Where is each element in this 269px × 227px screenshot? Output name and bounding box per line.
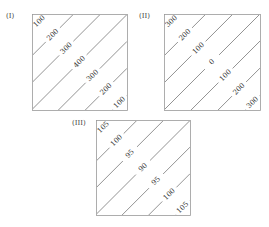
contour-line xyxy=(122,188,149,215)
contour-line xyxy=(85,96,99,110)
contour-line xyxy=(96,161,123,188)
contour-line xyxy=(137,120,164,147)
contour-line xyxy=(163,147,190,174)
contour-line xyxy=(246,68,260,82)
contour-panel-3: 105100959095100105 xyxy=(96,120,191,216)
contour-label: 300 xyxy=(85,68,100,83)
contour-label: 200 xyxy=(99,82,114,97)
contour-label: 95 xyxy=(150,175,162,187)
contour-line xyxy=(100,41,127,68)
contour-label: 100 xyxy=(109,133,124,148)
contour-label: 105 xyxy=(96,120,111,135)
contour-label: 90 xyxy=(137,162,149,174)
contour-label: 105 xyxy=(175,200,190,215)
contour-label: 100 xyxy=(112,95,127,110)
contour-line xyxy=(150,121,190,161)
contour-line xyxy=(206,14,233,41)
contour-line xyxy=(113,68,127,82)
contour-line xyxy=(60,14,74,28)
contour-label: 300 xyxy=(245,95,260,110)
contour-line xyxy=(58,83,85,110)
contour-line xyxy=(164,56,191,83)
contour-line xyxy=(96,175,136,215)
contour-line xyxy=(219,14,260,55)
contour-line xyxy=(32,55,59,82)
contour-line xyxy=(176,174,190,188)
contour-line xyxy=(164,42,178,56)
contour-line xyxy=(218,96,232,110)
contour-label: 200 xyxy=(231,81,246,96)
contour-line xyxy=(32,69,72,109)
contour-label: 300 xyxy=(59,41,74,56)
contour-line xyxy=(32,42,46,56)
contour-line xyxy=(164,69,205,110)
contour-label: 95 xyxy=(124,148,136,160)
contour-label: 200 xyxy=(177,27,192,42)
contour-label: 300 xyxy=(164,14,179,29)
contour-line xyxy=(192,14,206,28)
contour-line xyxy=(191,83,218,110)
contour-label: 100 xyxy=(218,68,233,83)
contour-line xyxy=(124,120,138,134)
contour-line xyxy=(149,201,163,215)
contour-line xyxy=(87,15,127,55)
contour-line xyxy=(96,148,110,162)
contour-label: 100 xyxy=(32,14,47,29)
contour-panel-2: 3002001000100200300 xyxy=(164,14,261,111)
contour-label: 200 xyxy=(45,27,60,42)
contour-label: 100 xyxy=(162,187,177,202)
contour-label: 400 xyxy=(72,54,87,69)
contour-line xyxy=(73,14,100,41)
contour-label: 0 xyxy=(208,58,217,67)
contour-panel-1: 100200300400300200100 xyxy=(32,14,128,111)
contour-label: 100 xyxy=(191,41,206,56)
contour-map-1: 1002003004003002001003002001000100200300… xyxy=(0,0,269,227)
contour-line xyxy=(233,41,260,68)
